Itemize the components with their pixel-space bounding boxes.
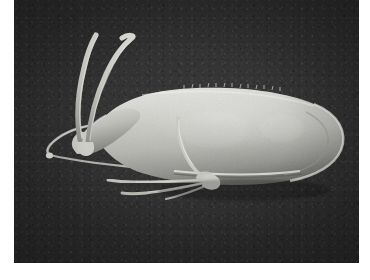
- specimen-drawing: [14, 0, 359, 263]
- micrograph-figure: [0, 0, 370, 280]
- contact-shadow: [158, 179, 330, 201]
- internal-shading: [260, 114, 304, 142]
- figure-caption: [0, 0, 1, 1]
- micrograph-plate: [14, 0, 359, 263]
- flagellum-terminal-knob: [46, 153, 53, 159]
